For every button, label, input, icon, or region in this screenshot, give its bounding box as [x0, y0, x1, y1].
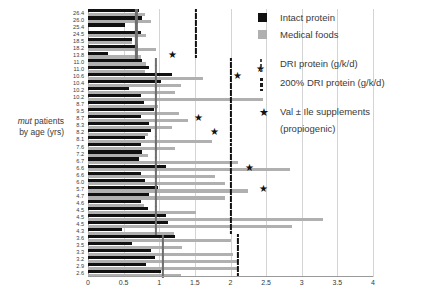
star-icon: ★	[259, 107, 269, 118]
legend-label-star: Val ± Ile supplements	[280, 106, 370, 118]
y-tick-label: 10.4	[73, 80, 84, 86]
y-tick-label: 10.2	[73, 94, 84, 100]
legend-spacer-b	[258, 96, 428, 106]
y-tick-label: 10.2	[73, 87, 84, 93]
bar-intact-protein	[88, 38, 132, 41]
bar-intact-protein	[88, 228, 122, 231]
bar-intact-protein	[88, 23, 125, 26]
bar-intact-protein	[88, 52, 108, 55]
legend-key-star: ★	[258, 106, 280, 118]
bar-intact-protein	[88, 270, 161, 273]
x-tick-label: 0	[86, 279, 90, 286]
y-tick-label: 4.5	[76, 221, 84, 227]
y-tick-label: 4.5	[76, 214, 84, 220]
legend-dashed-line-icon	[260, 59, 262, 72]
y-tick-label: 13.8	[73, 52, 84, 58]
x-tick-label: 3.5	[333, 279, 343, 286]
legend-swatch-black-icon	[258, 13, 267, 22]
bar-intact-protein	[88, 242, 132, 245]
y-tick-label: 2.6	[76, 270, 84, 276]
y-tick-label: 10.6	[73, 73, 84, 79]
y-tick-label: 8.1	[76, 136, 84, 142]
y-tick-label: 11.0	[74, 59, 84, 65]
y-tick-label: 6.6	[76, 165, 84, 171]
legend-item-dri: DRI protein (g/k/d)	[258, 58, 428, 72]
legend-key-dri200	[258, 77, 280, 91]
dri200-marker	[237, 269, 239, 278]
x-tick-labels: 00.511.522.533.54	[88, 279, 373, 293]
bar-intact-protein	[88, 108, 154, 111]
legend-label-medical: Medical foods	[280, 29, 339, 41]
x-tick-label: 0.5	[119, 279, 129, 286]
bar-intact-protein	[88, 256, 155, 259]
legend-key-intact	[258, 12, 280, 22]
y-tick-label: 8.3	[76, 122, 84, 128]
bar-intact-protein	[88, 122, 149, 125]
bar-intact-protein	[88, 87, 129, 90]
bar-intact-protein	[88, 186, 158, 189]
star-marker-icon: ★	[168, 50, 177, 60]
bar-intact-protein	[88, 80, 161, 83]
bar-intact-protein	[88, 73, 172, 76]
x-axis-line	[88, 276, 373, 277]
y-tick-label: 3.6	[76, 235, 84, 241]
x-tick-label: 4	[371, 279, 375, 286]
bar-intact-protein	[88, 31, 141, 34]
y-tick-label: 3.3	[76, 249, 84, 255]
y-tick-label: 4.6	[76, 200, 84, 206]
x-tick-label: 2.5	[261, 279, 271, 286]
y-tick-label: 7.2	[76, 151, 84, 157]
star-marker-icon: ★	[194, 113, 203, 123]
x-tick-label: 1.5	[190, 279, 200, 286]
y-axis-title-italic: mut	[18, 116, 32, 126]
y-tick-label: 7.6	[76, 144, 84, 150]
y-tick-label: 8.7	[76, 115, 84, 121]
y-tick-label: 6.0	[76, 179, 84, 185]
y-tick-label: 5.7	[76, 186, 84, 192]
y-tick-label: 9.5	[76, 108, 84, 114]
x-tick-label: 1	[157, 279, 161, 286]
y-tick-label: 8.2	[76, 129, 84, 135]
y-tick-label: 4.3	[76, 228, 84, 234]
bar-intact-protein	[88, 94, 141, 97]
y-tick-label: 4.5	[76, 207, 84, 213]
y-tick-label: 24.5	[73, 31, 84, 37]
star-marker-icon: ★	[210, 127, 219, 137]
bar-intact-protein	[88, 207, 148, 210]
y-tick-label: 6.7	[76, 158, 84, 164]
legend-key-medical	[258, 29, 280, 39]
bar-intact-protein	[88, 9, 139, 12]
bar-intact-protein	[88, 129, 151, 132]
x-tick-label: 2	[229, 279, 233, 286]
y-tick-labels: 26.426.025.424.518.518.213.811.011.010.6…	[60, 9, 86, 277]
bar-intact-protein	[88, 136, 145, 139]
legend: Intact protein Medical foods DRI protein…	[258, 12, 428, 135]
legend-item-intact-protein: Intact protein	[258, 12, 428, 24]
legend-bold-dashed-line-icon	[260, 78, 263, 91]
y-tick-label: 11.0	[74, 66, 84, 72]
bar-intact-protein	[88, 16, 142, 19]
bar-intact-protein	[88, 45, 138, 48]
bar-intact-protein	[88, 200, 141, 203]
bar-intact-protein	[88, 59, 142, 62]
y-tick-label: 6.6	[76, 172, 84, 178]
y-tick-label: 18.5	[73, 38, 84, 44]
bar-intact-protein	[88, 263, 146, 266]
legend-label-intact: Intact protein	[280, 12, 335, 24]
bar-intact-protein	[88, 157, 139, 160]
legend-swatch-gray-icon	[258, 30, 267, 39]
y-axis-title-line2: by age (yrs)	[2, 127, 64, 138]
legend-spacer-a	[258, 46, 428, 58]
legend-label-dri: DRI protein (g/k/d)	[280, 58, 358, 70]
y-tick-label: 26.4	[73, 10, 84, 16]
y-tick-label: 4.7	[76, 193, 84, 199]
bar-intact-protein	[88, 66, 149, 69]
bar-intact-protein	[88, 143, 141, 146]
legend-item-dri200: 200% DRI protein (g/k/d)	[258, 77, 428, 91]
chart-container: mut patients by age (yrs) 26.426.025.424…	[0, 0, 429, 298]
bar-intact-protein	[88, 179, 145, 182]
bar-intact-protein	[88, 150, 142, 153]
y-tick-label: 3.5	[76, 242, 84, 248]
legend-item-medical-foods: Medical foods	[258, 29, 428, 41]
bar-intact-protein	[88, 101, 144, 104]
